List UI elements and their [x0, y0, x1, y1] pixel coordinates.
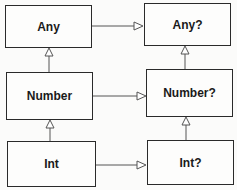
- node-label: Number?: [163, 86, 216, 100]
- node-label: Any?: [173, 18, 203, 32]
- node-number: Number: [6, 72, 93, 120]
- node-any-nullable: Any?: [144, 3, 231, 46]
- node-any: Any: [5, 5, 92, 48]
- node-int-nullable: Int?: [147, 140, 234, 185]
- node-number-nullable: Number?: [146, 69, 233, 117]
- node-int: Int: [7, 141, 96, 187]
- node-label: Int: [44, 157, 59, 171]
- node-label: Number: [27, 89, 72, 103]
- node-label: Any: [37, 20, 60, 34]
- node-label: Int?: [180, 156, 202, 170]
